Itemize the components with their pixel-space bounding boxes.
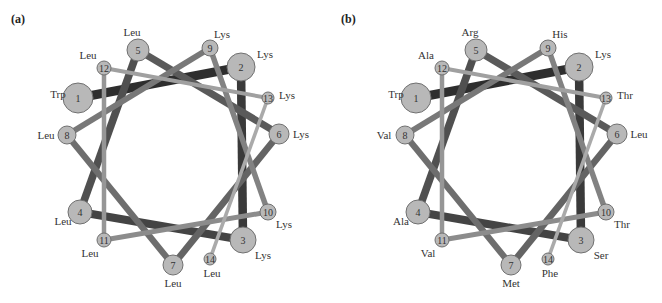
residue-number: 4 bbox=[416, 207, 421, 218]
residue-label: Lys bbox=[595, 48, 611, 60]
residue-number: 7 bbox=[171, 260, 176, 271]
residue-label: Thr bbox=[617, 89, 633, 101]
helical-wheel-a: 1413121110987654321 bbox=[0, 0, 331, 303]
residue-node: 8 bbox=[396, 126, 414, 144]
residue-node: 1 bbox=[63, 83, 93, 113]
residue-node: 2 bbox=[227, 53, 255, 81]
residue-label: His bbox=[552, 28, 567, 40]
residue-label: Ser bbox=[594, 249, 609, 261]
residue-node: 3 bbox=[230, 227, 256, 253]
residue-number: 1 bbox=[414, 93, 419, 104]
residue-number: 6 bbox=[277, 129, 282, 140]
residue-node: 8 bbox=[58, 126, 76, 144]
residue-node: 14 bbox=[542, 253, 554, 265]
residue-node: 9 bbox=[540, 40, 556, 56]
residue-number: 6 bbox=[615, 129, 620, 140]
residue-label: Leu bbox=[79, 49, 96, 61]
residue-label: Trp bbox=[388, 88, 404, 100]
residue-label: Val bbox=[377, 129, 392, 141]
residue-number: 12 bbox=[437, 63, 447, 74]
residue-node: 14 bbox=[204, 253, 216, 265]
panel-b: (b) 1413121110987654321 TrpLysSerAlaArgL… bbox=[338, 0, 662, 303]
residue-node: 11 bbox=[435, 233, 449, 247]
residue-node: 4 bbox=[68, 200, 92, 224]
residue-node: 7 bbox=[501, 255, 521, 275]
residue-label: Leu bbox=[81, 247, 98, 259]
residue-label: Leu bbox=[630, 128, 647, 140]
residue-label: Thr bbox=[614, 218, 630, 230]
residue-label: Ala bbox=[393, 215, 409, 227]
residue-number: 9 bbox=[546, 43, 551, 54]
residue-label: Lys bbox=[276, 218, 292, 230]
residue-number: 14 bbox=[205, 254, 215, 265]
residue-number: 11 bbox=[99, 235, 109, 246]
residue-label: Leu bbox=[123, 26, 140, 38]
residue-label: Val bbox=[421, 247, 436, 259]
residue-label: Met bbox=[502, 277, 520, 289]
residue-number: 4 bbox=[78, 207, 83, 218]
residue-label: Lys bbox=[293, 128, 309, 140]
residue-node: 12 bbox=[435, 61, 449, 75]
residue-number: 3 bbox=[579, 235, 584, 246]
residue-number: 2 bbox=[239, 62, 244, 73]
residue-label: Trp bbox=[50, 88, 66, 100]
residue-label: Lys bbox=[214, 28, 230, 40]
residue-node: 2 bbox=[565, 53, 593, 81]
residue-number: 2 bbox=[577, 62, 582, 73]
residue-label: Lys bbox=[255, 249, 271, 261]
residue-node: 5 bbox=[465, 39, 487, 61]
residue-node: 13 bbox=[600, 92, 612, 104]
panel-a: (a) 1413121110987654321 TrpLysLysLeuLeuL… bbox=[0, 0, 331, 303]
residue-number: 13 bbox=[601, 93, 611, 104]
residue-label: Phe bbox=[542, 267, 559, 279]
residue-number: 5 bbox=[474, 45, 479, 56]
residue-label: Leu bbox=[37, 129, 54, 141]
helical-wheel-b: 1413121110987654321 bbox=[338, 0, 662, 303]
residue-label: Leu bbox=[203, 267, 220, 279]
residue-node: 1 bbox=[401, 83, 431, 113]
residue-number: 1 bbox=[76, 93, 81, 104]
residue-label: Arg bbox=[462, 26, 479, 38]
residue-number: 10 bbox=[601, 207, 611, 218]
residue-node: 9 bbox=[202, 40, 218, 56]
residue-number: 13 bbox=[263, 93, 273, 104]
residue-node: 7 bbox=[163, 255, 183, 275]
residue-label: Lys bbox=[279, 89, 295, 101]
residue-node: 13 bbox=[262, 92, 274, 104]
residue-label: Leu bbox=[164, 277, 181, 289]
residue-label: Lys bbox=[257, 48, 273, 60]
residue-number: 8 bbox=[65, 130, 70, 141]
residue-node: 10 bbox=[598, 204, 614, 220]
residue-node: 11 bbox=[97, 233, 111, 247]
residue-number: 8 bbox=[403, 130, 408, 141]
residue-number: 14 bbox=[543, 254, 553, 265]
residue-node: 6 bbox=[269, 124, 289, 144]
residue-node: 5 bbox=[127, 39, 149, 61]
residue-number: 9 bbox=[208, 43, 213, 54]
residue-number: 12 bbox=[99, 63, 109, 74]
residue-node: 3 bbox=[568, 227, 594, 253]
residue-number: 11 bbox=[437, 235, 447, 246]
residue-number: 3 bbox=[241, 235, 246, 246]
residue-number: 5 bbox=[136, 45, 141, 56]
residue-node: 4 bbox=[406, 200, 430, 224]
residue-node: 12 bbox=[97, 61, 111, 75]
residue-node: 6 bbox=[607, 124, 627, 144]
residue-label: Ala bbox=[418, 49, 434, 61]
residue-number: 7 bbox=[509, 260, 514, 271]
residue-label: Leu bbox=[54, 215, 71, 227]
residue-node: 10 bbox=[260, 204, 276, 220]
residue-number: 10 bbox=[263, 207, 273, 218]
